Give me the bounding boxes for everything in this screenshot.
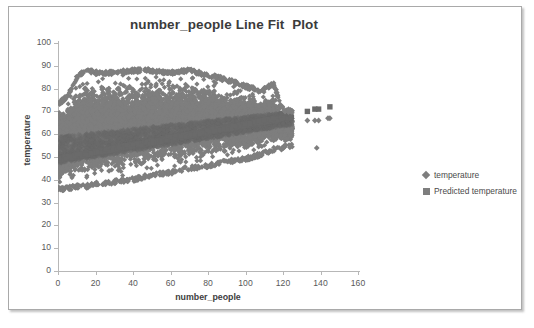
legend-label-predicted-temperature: Predicted temperature (434, 186, 517, 196)
scatter-point-predicted-temperature (144, 140, 148, 144)
scatter-point-predicted-temperature (222, 127, 226, 131)
scatter-point-temperature (183, 159, 188, 164)
x-tick-label: 60 (156, 278, 186, 288)
x-tick-label: 0 (43, 278, 73, 288)
scatter-point-temperature (236, 148, 241, 153)
scatter-point-predicted-temperature (58, 156, 62, 160)
scatter-point-temperature (304, 118, 310, 124)
x-tick-label: 100 (231, 278, 261, 288)
square-marker-icon (423, 188, 430, 195)
x-tick-mark (171, 271, 172, 275)
x-axis-title: number_people (58, 292, 358, 302)
scatter-point-temperature (251, 147, 256, 152)
scatter-point-temperature (178, 76, 183, 81)
scatter-point-predicted-temperature (280, 117, 284, 121)
scatter-point-temperature (210, 154, 215, 159)
scatter-point-temperature (113, 81, 118, 86)
scatter-point-predicted-temperature (229, 127, 233, 131)
scatter-point-predicted-temperature (89, 151, 93, 155)
page-root: number_people Line Fit Plot 010203040506… (0, 0, 534, 328)
scatter-point-predicted-temperature (198, 132, 202, 136)
scatter-point-temperature (128, 162, 133, 167)
x-tick-mark (246, 271, 247, 275)
scatter-point-predicted-temperature (63, 157, 67, 161)
scatter-point-temperature (155, 163, 160, 168)
scatter-point-predicted-temperature (257, 119, 261, 123)
scatter-point-temperature (314, 145, 320, 151)
scatter-point-predicted-temperature (192, 132, 196, 136)
x-tick-label: 20 (81, 278, 111, 288)
x-tick-label: 40 (118, 278, 148, 288)
x-tick-mark (358, 271, 359, 275)
y-tick-label: 30 (23, 198, 51, 207)
scatter-point-predicted-temperature (116, 145, 120, 149)
scatter-point-predicted-temperature (327, 104, 332, 109)
y-tick-label: 20 (23, 220, 51, 229)
scatter-point-predicted-temperature (103, 148, 107, 152)
scatter-point-predicted-temperature (188, 132, 192, 136)
scatter-point-predicted-temperature (164, 138, 168, 142)
x-tick-mark (321, 271, 322, 275)
scatter-point-temperature (154, 75, 159, 80)
scatter-point-predicted-temperature (124, 143, 128, 147)
x-tick-mark (96, 271, 97, 275)
scatter-point-temperature (126, 76, 131, 81)
scatter-point-temperature (100, 76, 105, 81)
scatter-point-predicted-temperature (263, 118, 267, 122)
scatter-point-predicted-temperature (178, 134, 182, 138)
scatter-point-temperature (194, 81, 199, 86)
scatter-point-temperature (144, 165, 149, 170)
x-tick-mark (58, 271, 59, 275)
x-tick-mark (283, 271, 284, 275)
diamond-marker-icon (422, 171, 430, 179)
scatter-point-predicted-temperature (174, 134, 178, 138)
scatter-point-predicted-temperature (79, 152, 83, 156)
chart-frame: number_people Line Fit Plot 010203040506… (8, 6, 522, 310)
scatter-point-predicted-temperature (243, 122, 247, 126)
y-tick-label: 0 (23, 266, 51, 275)
scatter-point-predicted-temperature (131, 143, 135, 147)
scatter-point-temperature (134, 76, 139, 81)
legend-item-temperature[interactable]: temperature (422, 167, 522, 183)
legend-label-temperature: temperature (434, 170, 479, 180)
scatter-point-temperature (85, 81, 90, 86)
scatter-point-predicted-temperature (95, 150, 99, 154)
x-tick-label: 120 (268, 278, 298, 288)
scatter-point-predicted-temperature (305, 109, 310, 114)
scatter-point-temperature (66, 101, 71, 106)
scatter-point-predicted-temperature (183, 134, 187, 138)
scatter-point-temperature (58, 179, 62, 184)
scatter-point-temperature (96, 79, 101, 84)
y-axis-title: temperature (22, 90, 32, 190)
x-tick-label: 80 (193, 278, 223, 288)
scatter-point-predicted-temperature (316, 106, 321, 111)
scatter-point-predicted-temperature (150, 141, 154, 145)
scatter-point-predicted-temperature (271, 117, 275, 121)
scatter-point-predicted-temperature (139, 143, 143, 147)
scatter-point-predicted-temperature (74, 152, 78, 156)
chart-title: number_people Line Fit Plot (9, 17, 439, 32)
y-tick-label: 10 (23, 243, 51, 252)
x-tick-mark (208, 271, 209, 275)
x-tick-mark (133, 271, 134, 275)
scatter-point-predicted-temperature (136, 141, 140, 145)
scatter-point-temperature (316, 118, 322, 124)
x-tick-label: 160 (343, 278, 373, 288)
y-tick-label: 100 (23, 38, 51, 47)
scatter-point-predicted-temperature (211, 129, 215, 133)
scatter-point-predicted-temperature (68, 154, 72, 158)
scatter-point-temperature (149, 166, 154, 171)
scatter-series-canvas (58, 43, 358, 271)
scatter-point-predicted-temperature (217, 128, 221, 132)
chart-legend: temperature Predicted temperature (422, 167, 522, 199)
x-tick-label: 140 (306, 278, 336, 288)
plot-area (58, 43, 358, 271)
y-tick-label: 90 (23, 61, 51, 70)
legend-item-predicted-temperature[interactable]: Predicted temperature (422, 183, 522, 199)
scatter-point-temperature (190, 76, 195, 81)
